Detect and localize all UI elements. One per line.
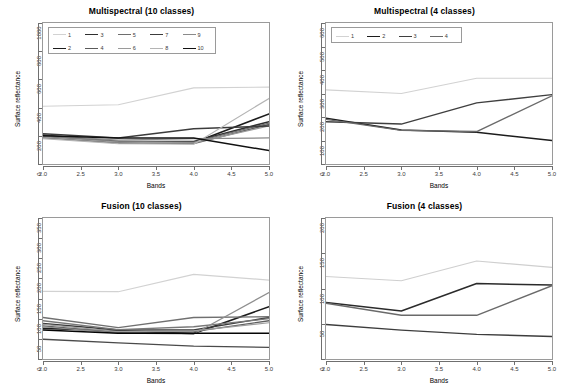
series-line-2 [326,284,552,312]
y-axis-tick-label: 600 [36,76,42,102]
y-axis-tick-label: 600 [319,20,325,46]
chart-panel-multispectral-10: Multispectral (10 classes)02004006008001… [0,0,283,195]
x-axis-tick-label: 4.5 [219,366,243,372]
x-axis-title: Bands [325,182,553,189]
series-line-10 [43,339,269,347]
series-canvas [326,23,552,164]
series-canvas [326,218,552,359]
x-axis-tick [269,361,270,365]
legend-line-swatch-icon [53,34,66,35]
series-line-1 [43,274,269,291]
x-axis-tick-label: 5.0 [257,171,281,177]
chart-legend: 13579246810 [48,27,216,54]
y-axis-line [38,23,39,164]
series-canvas [43,218,269,359]
legend-label: 2 [382,33,385,39]
series-line-3 [326,286,552,316]
y-axis-tick-label: 50 [319,321,325,347]
legend-line-swatch-icon [118,34,131,35]
x-axis-tick-label: 4.5 [219,171,243,177]
y-axis-tick-label: 350 [36,215,42,241]
x-axis-tick-label: 4.0 [182,366,206,372]
legend-item-4[interactable]: 4 [430,33,461,39]
y-axis-title: Surface reflectance [297,70,304,126]
legend-item-9[interactable]: 9 [183,32,215,38]
legend-label: 3 [100,32,103,38]
plot-area [325,217,553,360]
x-axis-tick [552,361,553,365]
chart-panel-multispectral-4: Multispectral (4 classes)010020030040050… [283,0,566,195]
y-axis-tick-label: 300 [319,91,325,117]
legend-item-1[interactable]: 1 [336,33,367,39]
y-axis-tick-label: 200 [36,133,42,159]
y-axis-tick-label: 200 [319,114,325,140]
x-axis-title: Bands [325,377,553,384]
y-axis-line [321,23,322,164]
x-axis-tick-label: 5.0 [257,366,281,372]
series-line-3 [326,95,552,124]
x-axis-line [326,361,552,362]
legend-row: 246810 [49,42,215,56]
chart-legend: 1234 [331,27,462,43]
x-axis-tick-label: 3.0 [106,366,130,372]
legend-row: 1234 [332,28,461,44]
x-axis-tick-label: 3.0 [106,171,130,177]
legend-label: 4 [445,33,448,39]
legend-item-3[interactable]: 3 [85,32,117,38]
figure-panel-grid: Multispectral (10 classes)02004006008001… [0,0,566,390]
y-axis-line [321,218,322,359]
legend-line-swatch-icon [399,36,412,37]
legend-item-5[interactable]: 5 [118,32,150,38]
y-axis-tick-label: 500 [319,44,325,70]
y-axis-title: Surface reflectance [14,70,21,126]
y-axis-line [38,218,39,359]
chart-panel-fusion-4: Fusion (4 classes)0501001502002.02.53.03… [283,195,566,390]
chart-title: Fusion (4 classes) [283,201,566,211]
x-axis-title: Bands [42,182,270,189]
legend-label: 9 [198,32,201,38]
legend-label: 6 [133,45,136,51]
plot-area [42,217,270,360]
x-axis-tick-label: 2.0 [314,366,338,372]
legend-item-3[interactable]: 3 [399,33,430,39]
legend-item-10[interactable]: 10 [183,45,215,51]
x-axis-tick-label: 3.5 [144,366,168,372]
legend-item-6[interactable]: 6 [118,45,150,51]
legend-item-2[interactable]: 2 [53,45,85,51]
x-axis-title: Bands [42,377,270,384]
y-axis-tick-label: 100 [319,138,325,164]
x-axis-tick-label: 3.5 [427,366,451,372]
chart-title: Multispectral (4 classes) [283,6,566,16]
series-line-1 [326,78,552,93]
legend-item-2[interactable]: 2 [367,33,398,39]
x-axis-tick-label: 4.0 [182,171,206,177]
x-axis-tick-label: 4.5 [502,366,526,372]
x-axis-tick [269,166,270,170]
legend-line-swatch-icon [183,34,196,35]
x-axis-tick-label: 3.0 [389,366,413,372]
y-axis-title: Surface reflectance [14,265,21,321]
legend-label: 3 [414,33,417,39]
x-axis-tick-label: 2.5 [69,366,93,372]
legend-item-1[interactable]: 1 [53,32,85,38]
legend-line-swatch-icon [367,36,380,37]
legend-label: 5 [133,32,136,38]
x-axis-tick-label: 2.5 [352,171,376,177]
legend-label: 1 [68,32,71,38]
legend-item-8[interactable]: 8 [150,45,182,51]
legend-line-swatch-icon [430,36,443,37]
legend-item-4[interactable]: 4 [85,45,117,51]
series-line-2 [326,118,552,140]
chart-title: Fusion (10 classes) [0,201,283,211]
legend-line-swatch-icon [150,48,163,49]
y-axis-tick-label: 1000 [36,20,42,46]
x-axis-tick-label: 3.5 [427,171,451,177]
x-axis-tick-label: 2.0 [31,366,55,372]
legend-item-7[interactable]: 7 [150,32,182,38]
x-axis-tick-label: 4.0 [465,171,489,177]
x-axis-tick [552,166,553,170]
legend-row: 13579 [49,28,215,42]
x-axis-tick-label: 2.5 [352,366,376,372]
legend-line-swatch-icon [336,36,349,37]
x-axis-tick-label: 2.5 [69,171,93,177]
